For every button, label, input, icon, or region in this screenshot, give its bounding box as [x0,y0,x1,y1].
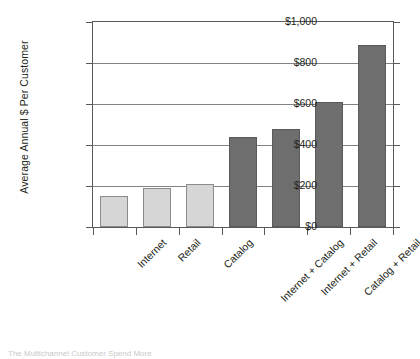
y-axis-label: $800 [257,57,317,68]
y-axis-label: $0 [257,221,317,232]
y-axis-tick [86,22,93,23]
x-axis-tick [93,227,94,235]
x-axis-tick [350,227,351,235]
x-axis-tick [222,227,223,235]
y-axis-tick-right [393,22,400,23]
y-axis-tick-right [393,227,400,228]
y-axis-tick [86,186,93,187]
bar [143,188,171,227]
y-axis-label: $400 [257,139,317,150]
x-axis-tick [393,227,394,235]
y-axis-title: Average Annual $ Per Customer [18,12,36,222]
x-axis-label: Internet [136,237,169,270]
gridline [93,104,393,105]
y-axis-tick-right [393,63,400,64]
x-axis-label: Catalog [222,237,255,270]
y-axis-tick-right [393,145,400,146]
bar [100,196,128,227]
y-axis-tick-right [393,104,400,105]
plot-area [92,21,394,228]
bar [315,102,343,227]
bar [229,137,257,227]
bar [358,45,386,227]
bar [186,184,214,227]
x-axis-label: Retail [176,237,203,264]
y-axis-label: $1,000 [257,16,317,27]
y-axis-tick [86,227,93,228]
bar-chart-figure: Average Annual $ Per Customer The Multic… [0,0,420,359]
y-axis-label: $200 [257,180,317,191]
y-axis-tick [86,145,93,146]
x-axis-tick [179,227,180,235]
y-axis-tick [86,63,93,64]
gridline [93,63,393,64]
x-axis-tick [136,227,137,235]
y-axis-tick [86,104,93,105]
figure-caption: The Multichannel Customer Spend More [8,349,152,359]
y-axis-label: $600 [257,98,317,109]
y-axis-tick-right [393,186,400,187]
